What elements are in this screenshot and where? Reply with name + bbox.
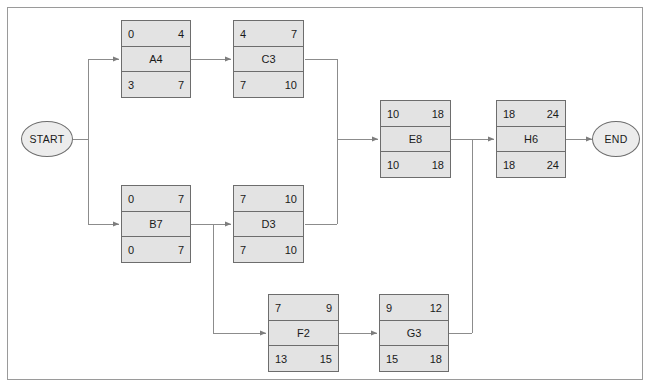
node-e8-late-start: 10	[387, 159, 399, 171]
node-b7-early-start: 0	[128, 193, 134, 205]
node-c3-early-row: 4 7	[234, 21, 303, 47]
node-g3-name: G3	[380, 321, 448, 345]
activity-node-b7[interactable]: 0 7 B7 0 7	[121, 185, 191, 263]
node-e8-early-row: 10 18	[381, 101, 450, 127]
node-d3-early-row: 7 10	[234, 186, 303, 212]
node-d3-late-row: 7 10	[234, 236, 303, 262]
node-d3-early-finish: 10	[285, 193, 297, 205]
node-c3-late-start: 7	[240, 79, 246, 91]
node-g3-late-row: 15 18	[380, 345, 448, 371]
network-diagram-canvas: START END 0 4 A4 3 7 4 7 C3 7 10 0 7	[0, 0, 652, 391]
node-b7-late-start: 0	[128, 244, 134, 256]
node-f2-late-row: 13 15	[269, 345, 338, 371]
node-e8-name: E8	[381, 127, 450, 151]
activity-node-e8[interactable]: 10 18 E8 10 18	[380, 100, 451, 178]
terminal-end-label: END	[604, 133, 627, 145]
node-e8-late-row: 10 18	[381, 151, 450, 177]
activity-node-f2[interactable]: 7 9 F2 13 15	[268, 294, 339, 372]
node-h6-late-start: 18	[503, 159, 515, 171]
node-f2-early-start: 7	[275, 302, 281, 314]
terminal-end[interactable]: END	[592, 121, 640, 157]
node-b7-early-row: 0 7	[122, 186, 190, 212]
node-h6-early-start: 18	[503, 108, 515, 120]
node-b7-late-finish: 7	[178, 244, 184, 256]
node-h6-early-finish: 24	[547, 108, 559, 120]
node-f2-late-start: 13	[275, 353, 287, 365]
node-c3-name: C3	[234, 47, 303, 71]
node-e8-early-start: 10	[387, 108, 399, 120]
node-h6-late-finish: 24	[547, 159, 559, 171]
node-b7-late-row: 0 7	[122, 236, 190, 262]
node-d3-late-start: 7	[240, 244, 246, 256]
node-h6-early-row: 18 24	[497, 101, 565, 127]
node-a4-name: A4	[122, 47, 190, 71]
terminal-start[interactable]: START	[21, 121, 73, 157]
node-b7-name: B7	[122, 212, 190, 236]
node-c3-early-finish: 7	[291, 28, 297, 40]
node-d3-name: D3	[234, 212, 303, 236]
node-c3-late-row: 7 10	[234, 71, 303, 97]
node-f2-early-row: 7 9	[269, 295, 338, 321]
node-a4-early-row: 0 4	[122, 21, 190, 47]
node-c3-late-finish: 10	[285, 79, 297, 91]
terminal-start-label: START	[30, 133, 65, 145]
node-c3-early-start: 4	[240, 28, 246, 40]
activity-node-c3[interactable]: 4 7 C3 7 10	[233, 20, 304, 98]
node-a4-late-start: 3	[128, 79, 134, 91]
node-g3-late-start: 15	[386, 353, 398, 365]
activity-node-g3[interactable]: 9 12 G3 15 18	[379, 294, 449, 372]
node-e8-late-finish: 18	[432, 159, 444, 171]
node-d3-early-start: 7	[240, 193, 246, 205]
node-h6-late-row: 18 24	[497, 151, 565, 177]
activity-node-d3[interactable]: 7 10 D3 7 10	[233, 185, 304, 263]
node-b7-early-finish: 7	[178, 193, 184, 205]
node-h6-name: H6	[497, 127, 565, 151]
node-a4-early-finish: 4	[178, 28, 184, 40]
node-f2-late-finish: 15	[320, 353, 332, 365]
node-f2-early-finish: 9	[326, 302, 332, 314]
node-e8-early-finish: 18	[432, 108, 444, 120]
activity-node-a4[interactable]: 0 4 A4 3 7	[121, 20, 191, 98]
activity-node-h6[interactable]: 18 24 H6 18 24	[496, 100, 566, 178]
node-a4-late-finish: 7	[178, 79, 184, 91]
node-d3-late-finish: 10	[285, 244, 297, 256]
node-g3-late-finish: 18	[430, 353, 442, 365]
node-g3-early-finish: 12	[430, 302, 442, 314]
node-g3-early-row: 9 12	[380, 295, 448, 321]
node-a4-late-row: 3 7	[122, 71, 190, 97]
node-a4-early-start: 0	[128, 28, 134, 40]
node-f2-name: F2	[269, 321, 338, 345]
node-g3-early-start: 9	[386, 302, 392, 314]
